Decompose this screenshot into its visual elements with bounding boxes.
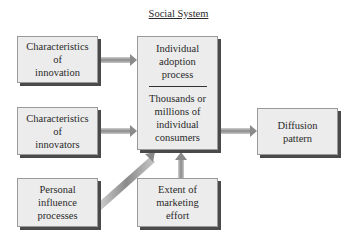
box-text: Individual <box>156 42 199 55</box>
box-text: Diffusion <box>277 119 317 132</box>
box-diffusion-pattern: Diffusion pattern <box>257 108 338 155</box>
box-text: of <box>53 53 62 66</box>
box-text: individual <box>156 118 199 131</box>
box-text: Thousands or <box>149 92 206 105</box>
box-text: influence <box>38 196 77 209</box>
box-text: processes <box>37 209 77 222</box>
box-text: millions of <box>155 105 201 118</box>
box-text: marketing <box>156 196 199 209</box>
arrow-consumers-to-diffusion <box>221 125 257 137</box>
box-text: of <box>53 125 62 138</box>
box-text: innovators <box>35 138 79 151</box>
box-text: process <box>162 68 194 81</box>
box-text: Personal <box>39 183 75 196</box>
adoption-section: Individual adoption process <box>156 37 199 81</box>
box-characteristics-of-innovators: Characteristics of innovators <box>17 107 98 155</box>
box-text: Characteristics <box>26 112 88 125</box>
box-text: pattern <box>283 132 312 145</box>
box-text: effort <box>166 209 189 222</box>
box-text: innovation <box>35 66 80 79</box>
arrow-marketing-to-consumers <box>175 152 187 178</box>
box-text: Extent of <box>158 183 197 196</box>
box-extent-of-marketing-effort: Extent of marketing effort <box>137 178 218 227</box>
arrow-innovation-to-adoption <box>101 54 137 66</box>
consumers-section: Thousands or millions of individual cons… <box>149 92 206 144</box>
arrow-innovators-to-consumers <box>101 125 137 137</box>
box-characteristics-of-innovation: Characteristics of innovation <box>17 36 98 83</box>
box-text: consumers <box>155 131 200 144</box>
section-divider <box>149 86 207 87</box>
box-individual-adoption-process: Individual adoption process Thousands or… <box>137 36 218 150</box>
box-personal-influence-processes: Personal influence processes <box>17 178 98 227</box>
box-text: adoption <box>159 55 196 68</box>
box-text: Characteristics <box>26 40 88 53</box>
